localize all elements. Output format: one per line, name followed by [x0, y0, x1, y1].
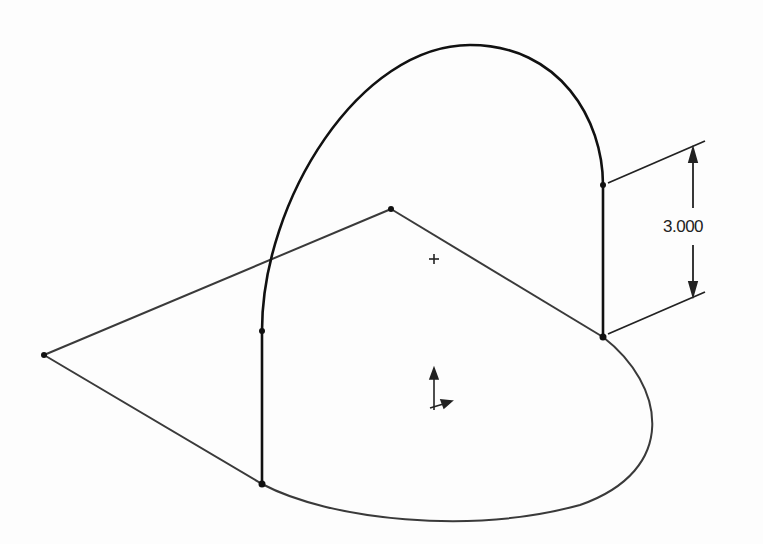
- edge-top-right: [391, 209, 603, 337]
- sketch-canvas[interactable]: 3.000: [0, 0, 763, 544]
- edge-left-bottom: [44, 355, 262, 484]
- base-arc: [262, 337, 652, 521]
- base-profile: [44, 209, 652, 521]
- coordinate-triad-icon: [430, 368, 452, 410]
- plus-icon: [429, 254, 439, 264]
- sketch-drawing: [0, 0, 763, 544]
- dimension-label[interactable]: 3.000: [663, 216, 703, 238]
- arch-curve: [262, 45, 603, 331]
- edge-left-top: [44, 209, 391, 355]
- sketch-points: [41, 182, 607, 488]
